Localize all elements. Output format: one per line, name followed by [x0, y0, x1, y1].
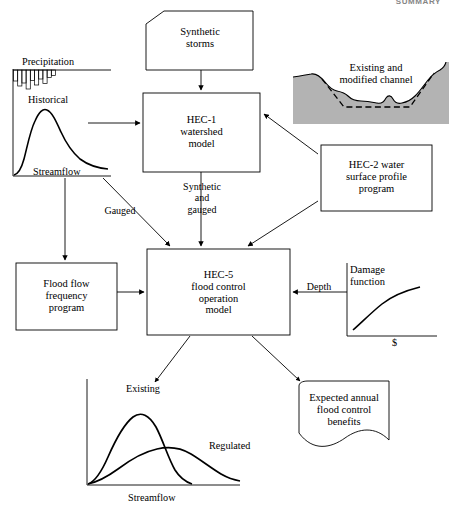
precipitation-bars — [14, 70, 56, 89]
chart-damage-function-title: Damage function — [350, 264, 414, 288]
edge-hec2-to-hec5 — [248, 201, 318, 246]
node-hec2-label: HEC-2 water surface profile program — [321, 159, 432, 194]
chart-historical-xlabel: Streamflow — [33, 166, 81, 178]
damage-function-curve — [353, 287, 420, 330]
chart-damage-function-xlabel: $ — [392, 337, 397, 349]
node-hec5-label: HEC-5 flood control operation model — [147, 269, 290, 316]
edge-hec5-to-hydrograph-chart — [155, 336, 190, 382]
chart-regulated-series-label: Regulated — [209, 440, 250, 452]
edge-label-depth: Depth — [296, 281, 342, 292]
chart-historical-hydrograph — [13, 69, 111, 176]
chart-channel-title: Existing and modified channel — [316, 62, 436, 86]
diagram-page: SUMMARY — [0, 0, 449, 513]
edge-label-gauged: Gauged — [92, 205, 148, 216]
chart-existing-vs-regulated — [87, 379, 240, 485]
regulated-curve — [88, 448, 240, 484]
node-hec1-label: HEC-1 watershed model — [143, 114, 260, 149]
node-expected-benefits-label: Expected annual flood control benefits — [297, 392, 391, 427]
edge-hec5-to-expected-benefits — [252, 336, 300, 381]
chart-bottom-xlabel: Streamflow — [128, 492, 176, 504]
chart-historical-label: Historical — [28, 94, 68, 106]
node-flood-flow-frequency-label: Flood flow frequency program — [16, 278, 117, 313]
node-synthetic-storms-label: Synthetic storms — [152, 26, 248, 50]
edge-label-synthetic-and-gauged: Synthetic and gauged — [173, 181, 231, 215]
chart-precipitation-label: Precipitation — [22, 56, 74, 68]
chart-existing-series-label: Existing — [126, 383, 160, 395]
